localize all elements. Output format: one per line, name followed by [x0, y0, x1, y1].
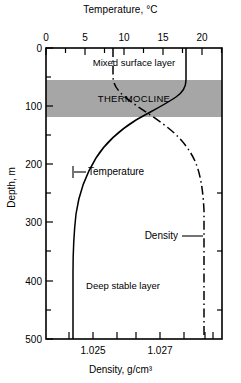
density-tick-label-1027: 1.027	[147, 345, 172, 356]
temperature-series-label: Temperature	[88, 166, 144, 177]
density-series-label: Density	[145, 230, 178, 241]
mixed-surface-layer-label: Mixed surface layer	[93, 57, 175, 68]
thermocline-label: THERMOCLINE	[98, 93, 170, 104]
top-axis-ticks	[46, 48, 222, 55]
ocean-profile-chart: Temperature, °C 0 5 10 15 20 0 100 200 3…	[0, 0, 241, 383]
density-tick-label-1025: 1.025	[80, 345, 105, 356]
bottom-axis-ticks	[69, 332, 213, 339]
deep-stable-layer-label: Deep stable layer	[86, 280, 160, 291]
bottom-axis-title: Density, g/cm³	[0, 364, 241, 375]
